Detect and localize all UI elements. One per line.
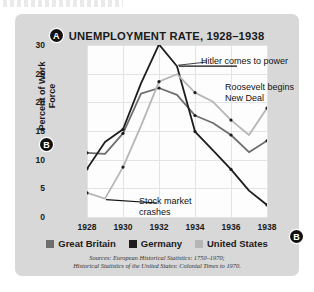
source-line-2: Historical Statistics of the United Stat…	[15, 262, 299, 270]
x-axis-tick: 1938	[250, 222, 284, 232]
x-axis-tick: 1934	[178, 222, 212, 232]
legend-label: United States	[207, 238, 268, 249]
y-axis-tick: 25	[19, 69, 45, 79]
series-point	[121, 128, 124, 131]
gridline-vertical	[267, 45, 268, 217]
legend-swatch	[129, 240, 137, 248]
legend-item: Germany	[129, 238, 182, 249]
chart-series-svg	[87, 45, 267, 217]
x-axis-tick: 1932	[142, 222, 176, 232]
y-axis-tick: 10	[19, 155, 45, 165]
legend-item: Great Britain	[46, 238, 116, 249]
annotation-stock-market: Stock market crashes	[139, 196, 223, 217]
series-point	[87, 151, 89, 154]
series-point	[193, 91, 196, 94]
y-axis-tick: 0	[19, 212, 45, 222]
legend-label: Germany	[141, 238, 182, 249]
series-point	[229, 119, 232, 122]
series-point	[229, 133, 232, 136]
series-point	[121, 166, 124, 169]
x-axis-tick: 1930	[106, 222, 140, 232]
legend-item: United States	[195, 238, 268, 249]
y-axis-tick: 30	[19, 40, 45, 50]
legend-swatch	[46, 240, 54, 248]
series-point	[229, 168, 232, 171]
annotation-roosevelt: Roosevelt begins New Deal	[225, 82, 299, 103]
chart-figure: A UNEMPLOYMENT RATE, 1928–1938 B B D Per…	[15, 14, 299, 276]
page-header-artifact	[3, 0, 123, 7]
gridline-horizontal	[87, 217, 267, 218]
y-axis-tick: 20	[19, 97, 45, 107]
series-point	[193, 130, 196, 133]
x-axis-tick: 1936	[214, 222, 248, 232]
series-point	[157, 86, 160, 89]
series-point	[121, 132, 124, 135]
series-point	[193, 114, 196, 117]
series-line	[87, 45, 267, 205]
annotation-hitler: Hitler comes to power	[201, 56, 293, 67]
chart-legend: Great BritainGermanyUnited States	[15, 238, 299, 249]
plot-area-wrapper: B B D Percent of Work Force Hitler comes…	[15, 14, 299, 276]
x-axis-tick: 1928	[70, 222, 104, 232]
legend-swatch	[195, 240, 203, 248]
series-point	[157, 80, 160, 83]
y-axis-tick: 5	[19, 183, 45, 193]
source-line-1: Sources: European Historical Statistics:…	[15, 254, 299, 262]
chart-sources: Sources: European Historical Statistics:…	[15, 254, 299, 270]
legend-label: Great Britain	[58, 238, 116, 249]
y-axis-tick: 15	[19, 126, 45, 136]
